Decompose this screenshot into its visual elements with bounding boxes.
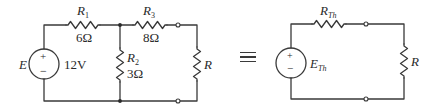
junction-dot-top [118,23,122,27]
resistor-r2-icon [117,48,124,82]
wire-th-source-top [291,24,312,48]
circuit-figure: R1 6Ω R3 8Ω R2 3Ω R E 12V + − RTh ETh R … [0,0,437,112]
terminal-th-bottom [364,97,368,101]
resistor-load-icon [194,47,201,81]
resistor-rth-icon [312,21,346,28]
wire-th-right-top [368,24,404,44]
wire-right-bottom [180,81,197,101]
original-circuit [29,22,201,104]
resistor-th-load-icon [401,44,408,78]
resistor-r3-icon [133,22,167,29]
value-r1: 6Ω [76,31,92,44]
label-load-r: R [204,58,212,71]
source-minus-sign: − [40,65,47,77]
terminal-top [176,23,180,27]
terminal-bottom [176,99,180,103]
equivalence-symbol [240,52,256,65]
wire-th-right-bottom [368,78,404,99]
label-th-load-r: R [411,55,419,68]
label-source-e: E [19,58,27,71]
value-r3: 8Ω [143,31,159,44]
wire-right-top [180,25,197,47]
resistor-r1-icon [66,22,100,29]
label-r1: R1 [77,4,89,20]
wire-th-bottom [291,78,364,99]
value-source-voltage: 12V [64,58,86,71]
label-eth: ETh [310,57,326,73]
circuit-drawing [0,0,437,112]
source-plus-sign: + [40,51,46,62]
label-r3: R3 [143,4,155,20]
thevenin-circuit [276,21,408,102]
value-r2: 3Ω [127,67,143,80]
wire-bottom [44,79,178,101]
label-r2: R2 [127,51,139,67]
junction-dot-bottom [118,99,122,103]
label-rth: RTh [320,4,336,20]
terminal-th-top [364,22,368,26]
wire-source-top [44,25,66,49]
th-source-minus-sign: − [287,63,293,74]
th-source-plus-sign: + [287,51,293,61]
